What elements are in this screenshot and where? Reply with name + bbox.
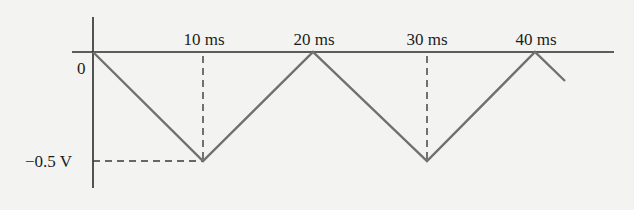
x-tick-label-40ms: 40 ms [515, 31, 556, 48]
triangle-waveform [93, 52, 565, 161]
triangle-waveform-figure: 10 ms 20 ms 30 ms 40 ms 0 −0.5 V [0, 0, 634, 210]
x-tick-label-10ms: 10 ms [183, 31, 224, 48]
y-label-zero: 0 [77, 60, 86, 77]
x-tick-label-20ms: 20 ms [293, 31, 334, 48]
x-tick-label-30ms: 30 ms [406, 31, 447, 48]
y-label-minus-half-volt: −0.5 V [25, 153, 72, 170]
